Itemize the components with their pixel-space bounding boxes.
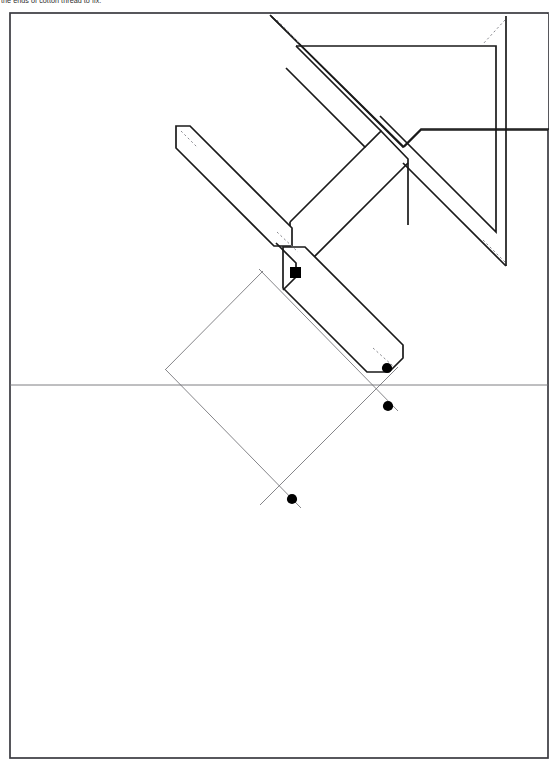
mid-band-outline-2 bbox=[306, 163, 408, 265]
technical-drawing-figure bbox=[0, 0, 555, 766]
right-triangle-lower-edge bbox=[403, 163, 506, 266]
lower-right-arm-outline bbox=[283, 247, 403, 372]
construction-line-nw-se-right bbox=[260, 367, 398, 505]
vertex-dot-junction-square bbox=[290, 267, 301, 278]
fold-line-bottom-right bbox=[483, 240, 505, 262]
vertex-dot-lower-arm-end bbox=[382, 363, 392, 373]
drawing-page: the ends of cotton thread to fix. bbox=[0, 0, 555, 766]
upper-left-arm-outline bbox=[176, 126, 292, 246]
vertex-dot-right-lower bbox=[383, 401, 393, 411]
vertex-dot-bottom bbox=[287, 494, 297, 504]
mid-band-outline bbox=[290, 147, 365, 222]
outer-chevron-border-diag bbox=[404, 130, 548, 147]
construction-line-ne-sw-lower bbox=[166, 370, 301, 508]
folded-arrow-outline-group bbox=[176, 14, 549, 372]
construction-line-nw-se-left bbox=[165, 271, 263, 370]
